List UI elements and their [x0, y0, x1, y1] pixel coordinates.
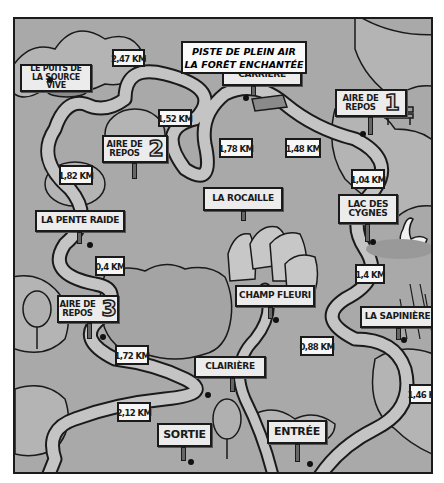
sign-post	[87, 323, 92, 339]
rest-number: 1	[384, 92, 399, 114]
trail-map: PISTE DE PLEIN AIR LA FORÊT ENCHANTÉE LE…	[13, 17, 433, 474]
sign-clairiere[interactable]: CLAIRIÈRE	[194, 356, 266, 378]
waypoint-marker	[273, 317, 279, 323]
sign-label: SORTIE	[163, 429, 206, 441]
waypoint-marker	[188, 459, 194, 465]
sign-post	[241, 211, 246, 221]
sign-aire-de-repos-2[interactable]: AIRE DE REPOS 2	[102, 135, 168, 163]
distance-label: 0,4 KM	[95, 256, 125, 276]
distance-label: 0,88 KM	[300, 336, 334, 356]
sign-label: CHAMP FLEURI	[239, 291, 311, 300]
sign-post	[77, 232, 82, 244]
sign-label: REPOS	[107, 149, 143, 158]
sign-aire-de-repos-1[interactable]: AIRE DE REPOS 1	[335, 89, 407, 117]
sign-label: LA ROCAILLE	[212, 194, 274, 203]
sign-label: REPOS	[343, 103, 379, 112]
sign-post	[181, 447, 186, 461]
distance-label: 1,46 KM	[409, 384, 433, 404]
sign-la-rocaille[interactable]: LA ROCAILLE	[203, 187, 283, 211]
distance-label: 1,82 KM	[59, 165, 93, 185]
sign-label: REPOS	[60, 309, 96, 318]
distance-label: 1,52 KM	[158, 109, 192, 127]
waypoint-marker	[360, 131, 366, 137]
rocks-icon	[228, 227, 318, 291]
sign-post	[132, 163, 137, 179]
sign-post	[295, 444, 300, 462]
sign-la-pente-raide[interactable]: LA PENTE RAIDE	[35, 210, 125, 232]
sign-post	[268, 307, 273, 319]
sign-entree[interactable]: ENTRÉE	[267, 420, 327, 444]
sign-sortie[interactable]: SORTIE	[157, 423, 212, 447]
title-line-2: LA FORÊT ENCHANTÉE	[183, 58, 305, 71]
sign-label: CLAIRIÈRE	[205, 362, 254, 371]
distance-label: 1,4 KM	[355, 264, 385, 284]
sign-label: CYGNES	[349, 209, 388, 218]
sign-post	[368, 117, 373, 135]
rest-number: 3	[101, 298, 116, 320]
sign-label: LA SOURCE VIVE	[22, 74, 90, 91]
waypoint-marker	[87, 242, 93, 248]
waypoint-marker	[205, 392, 211, 398]
sign-label: LA SAPINIÈRE	[365, 312, 431, 321]
title-line-1: PISTE DE PLEIN AIR	[183, 45, 305, 58]
distance-label: 2,12 KM	[117, 402, 151, 422]
sign-label: ENTRÉE	[274, 426, 320, 438]
waypoint-marker	[47, 77, 53, 83]
tree-cluster-icon	[355, 19, 433, 99]
waypoint-marker	[401, 337, 407, 343]
lake-icon	[366, 239, 433, 259]
map-title: PISTE DE PLEIN AIR LA FORÊT ENCHANTÉE	[181, 41, 307, 74]
rest-number: 2	[148, 138, 163, 160]
sign-puits-source-vive[interactable]: LE PUITS DE LA SOURCE VIVE	[20, 64, 92, 92]
waypoint-marker	[307, 461, 313, 467]
waypoint-marker	[243, 95, 249, 101]
sign-aire-de-repos-3[interactable]: AIRE DE REPOS 3	[57, 295, 119, 323]
waypoint-marker	[100, 334, 106, 340]
distance-label: 1,78 KM	[219, 138, 253, 158]
sign-lac-des-cygnes[interactable]: LAC DES CYGNES	[338, 194, 398, 224]
sign-champ-fleuri[interactable]: CHAMP FLEURI	[235, 285, 315, 307]
sign-post	[230, 378, 235, 392]
sign-la-sapiniere[interactable]: LA SAPINIÈRE	[360, 306, 433, 328]
waypoint-marker	[370, 239, 376, 245]
sign-post	[251, 86, 256, 96]
sign-post	[365, 224, 370, 242]
distance-label: 2,47 KM	[112, 49, 145, 67]
distance-label: 1,48 KM	[285, 138, 321, 158]
distance-label: 1,04 KM	[351, 169, 385, 189]
sign-label: LA PENTE RAIDE	[41, 216, 119, 225]
distance-label: 1,72 KM	[115, 345, 149, 365]
